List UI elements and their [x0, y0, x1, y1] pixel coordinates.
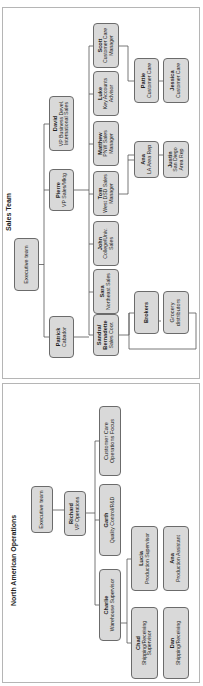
- dan-role: Shipping/Receiving: [176, 621, 181, 665]
- grocery-label: Grocery distributors: [170, 293, 182, 332]
- sales-team-title: Sales Team: [5, 193, 12, 231]
- justin-box[interactable]: Justin San Diego Area Rep: [163, 141, 189, 178]
- luke-box[interactable]: Luke Key Accounts Advisor: [93, 71, 119, 116]
- brokers-label: Brokers: [144, 302, 150, 323]
- matthew-role: PNW Sales Manager: [103, 123, 114, 164]
- ana-production-box[interactable]: Ana Production Assistant: [163, 526, 189, 591]
- brokers-box[interactable]: Brokers: [134, 291, 159, 334]
- customer-care-operations-label: Customer Care Operations Focus: [104, 408, 116, 474]
- chad-box[interactable]: Chad Shipping/Receiving Supervisor: [131, 607, 158, 679]
- scott-box[interactable]: Scott Customer Care Manager: [93, 23, 119, 68]
- sara-role: Northeast Sales: [106, 273, 111, 310]
- sara-box[interactable]: Sara Northeast Sales: [93, 269, 119, 314]
- patrick-role: Cabador: [62, 327, 67, 347]
- grocery-distributors-box[interactable]: Grocery distributors: [163, 291, 189, 334]
- tom-box[interactable]: Tom West DSD Sales Manager: [93, 171, 119, 216]
- charlie-role: Warehouse Supervisor: [110, 579, 115, 632]
- lucia-box[interactable]: Lucia Production Supervisor: [131, 526, 158, 591]
- lucia-role: Production Supervisor: [145, 533, 150, 584]
- richard-role: VP Operations: [75, 497, 80, 531]
- richard-box[interactable]: Richard VP Operations: [64, 491, 86, 536]
- dan-box[interactable]: Dan Shipping/Receiving: [163, 607, 189, 679]
- operations-executive-team-box[interactable]: Executive team: [31, 486, 53, 533]
- operations-title: North American Operations: [10, 515, 17, 606]
- luke-role: Key Accounts Advisor: [103, 73, 114, 114]
- chad-role: Shipping/Receiving Supervisor: [142, 609, 153, 677]
- tom-role: West DSD Sales Manager: [103, 173, 114, 214]
- pierre-role: VP Sales/Mktg: [62, 173, 67, 207]
- ana-la-role: LA Area Rep: [147, 145, 152, 174]
- pierre-box[interactable]: Pierre VP Sales/Mktg: [49, 169, 74, 211]
- sales-team-panel: Sales Team Executive team Patrick Cabado…: [2, 7, 200, 379]
- sandra-role: Sales Coor.: [109, 322, 114, 349]
- sales-team-chart: Sales Team Executive team Patrick Cabado…: [3, 8, 201, 379]
- justin-role: San Diego Area Rep: [173, 143, 184, 176]
- sales-executive-label: Executive team: [24, 245, 30, 283]
- sandra-bernadette-box[interactable]: Sandra/ Bernadette Sales Coor.: [93, 314, 119, 356]
- jessica-role: Customer Care: [176, 63, 181, 98]
- garth-box[interactable]: Garth Quality Control/R&D: [99, 484, 121, 556]
- john-box[interactable]: John College/Univ. Sales: [93, 221, 119, 266]
- matthew-box[interactable]: Matthew PNW Sales Manager: [93, 121, 119, 166]
- sales-executive-team-box[interactable]: Executive team: [14, 238, 39, 291]
- charlie-box[interactable]: Charlie Warehouse Supervisor: [99, 569, 121, 641]
- customer-care-operations-box[interactable]: Customer Care Operations Focus: [99, 406, 121, 476]
- operations-chart: North American Operations Executive team…: [3, 384, 201, 683]
- john-role: College/Univ. Sales: [103, 223, 114, 264]
- david-box[interactable]: David VP Business Devel. International S…: [49, 96, 74, 151]
- north-american-operations-panel: North American Operations Executive team…: [2, 383, 200, 683]
- ana-production-role: Production Assistant: [176, 535, 181, 582]
- ana-la-box[interactable]: Ana LA Area Rep: [134, 141, 159, 178]
- operations-executive-label: Executive team: [39, 490, 45, 528]
- pattie-role: Customer Care: [147, 63, 152, 98]
- pattie-box[interactable]: Pattie Customer Care: [134, 58, 159, 103]
- jessica-box[interactable]: Jessica Customer Care: [163, 58, 189, 103]
- garth-role: Quality Control/R&D: [110, 497, 115, 544]
- david-role: VP Business Devel. International Sales: [59, 98, 70, 149]
- scott-role: Customer Care Manager: [103, 25, 114, 66]
- patrick-box[interactable]: Patrick Cabador: [49, 316, 74, 358]
